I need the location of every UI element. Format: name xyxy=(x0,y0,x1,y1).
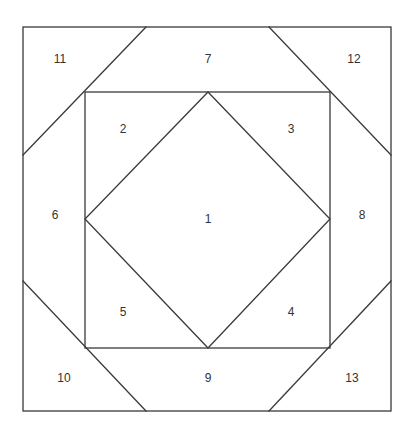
region-label-13: 13 xyxy=(345,371,359,385)
diagram-canvas: 12345678910111213 xyxy=(0,0,411,434)
region-label-9: 9 xyxy=(205,371,212,385)
region-label-2: 2 xyxy=(120,122,127,136)
quilt-block-diagram: 12345678910111213 xyxy=(0,0,411,434)
region-label-11: 11 xyxy=(54,52,67,66)
region-label-3: 3 xyxy=(288,122,295,136)
region-label-10: 10 xyxy=(57,371,71,385)
region-label-4: 4 xyxy=(288,305,295,319)
region-label-8: 8 xyxy=(359,208,366,222)
region-label-6: 6 xyxy=(52,208,59,222)
region-label-5: 5 xyxy=(120,305,127,319)
region-label-12: 12 xyxy=(347,52,361,66)
region-label-7: 7 xyxy=(205,52,212,66)
region-labels: 12345678910111213 xyxy=(52,52,366,385)
region-label-1: 1 xyxy=(205,212,212,226)
